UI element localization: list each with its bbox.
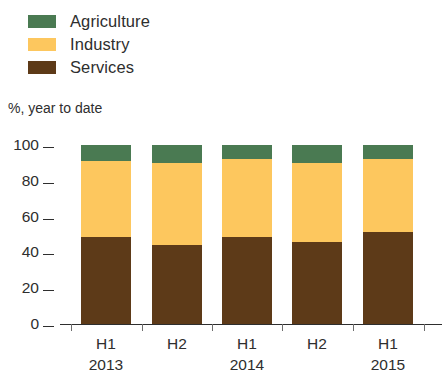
bar-segment-agriculture[interactable] (292, 145, 342, 163)
x-label-period-1: H2 (147, 333, 207, 354)
x-label-year-2: 2014 (217, 354, 277, 375)
x-label-period-0: H1 (76, 333, 136, 354)
bar-segment-services[interactable] (222, 237, 272, 324)
bar-series-container (0, 132, 442, 332)
x-label-year-4: 2015 (358, 354, 418, 375)
x-label-period-4: H1 (358, 333, 418, 354)
legend-item-industry: Industry (28, 33, 150, 56)
x-axis-baseline (60, 324, 442, 325)
bar-segment-industry[interactable] (292, 163, 342, 242)
bar-segment-industry[interactable] (363, 159, 413, 232)
x-axis-labels: H12013H2H12014H2H12015 (0, 333, 442, 378)
bar-segment-agriculture[interactable] (152, 145, 202, 163)
bar-h2-1[interactable] (152, 145, 202, 324)
x-label-group-3: H2 (287, 333, 347, 354)
legend-label-agriculture: Agriculture (70, 13, 150, 30)
bar-segment-services[interactable] (292, 242, 342, 324)
bar-segment-services[interactable] (152, 245, 202, 324)
bar-segment-industry[interactable] (152, 163, 202, 245)
bar-segment-services[interactable] (81, 237, 131, 324)
bar-segment-agriculture[interactable] (363, 145, 413, 159)
y-axis-caption: %, year to date (8, 100, 102, 116)
legend-item-services: Services (28, 56, 150, 79)
x-label-group-2: H12014 (217, 333, 277, 375)
chart-plot-area: 100 80 60 40 20 0 (0, 132, 442, 332)
legend-swatch-services-icon (28, 61, 56, 74)
chart-legend: Agriculture Industry Services (28, 10, 150, 79)
legend-swatch-agriculture-icon (28, 15, 56, 28)
bar-segment-industry[interactable] (222, 159, 272, 237)
legend-label-services: Services (70, 59, 134, 76)
legend-label-industry: Industry (70, 36, 130, 53)
x-axis-tick-2 (212, 324, 213, 331)
x-axis-tick-0 (71, 324, 72, 331)
legend-swatch-industry-icon (28, 38, 56, 51)
x-axis-tick-4 (353, 324, 354, 331)
bar-h1-2[interactable] (222, 145, 272, 324)
x-axis-tick-5 (424, 324, 425, 331)
x-axis-tick-1 (142, 324, 143, 331)
bar-segment-agriculture[interactable] (222, 145, 272, 159)
bar-h1-0[interactable] (81, 145, 131, 324)
x-label-group-1: H2 (147, 333, 207, 354)
bar-h1-4[interactable] (363, 145, 413, 324)
legend-item-agriculture: Agriculture (28, 10, 150, 33)
bar-segment-services[interactable] (363, 232, 413, 324)
x-label-period-2: H1 (217, 333, 277, 354)
bar-segment-agriculture[interactable] (81, 145, 131, 161)
x-label-group-4: H12015 (358, 333, 418, 375)
x-label-period-3: H2 (287, 333, 347, 354)
bar-segment-industry[interactable] (81, 161, 131, 237)
x-label-year-0: 2013 (76, 354, 136, 375)
x-axis-tick-3 (282, 324, 283, 331)
x-label-group-0: H12013 (76, 333, 136, 375)
bar-h2-3[interactable] (292, 145, 342, 324)
